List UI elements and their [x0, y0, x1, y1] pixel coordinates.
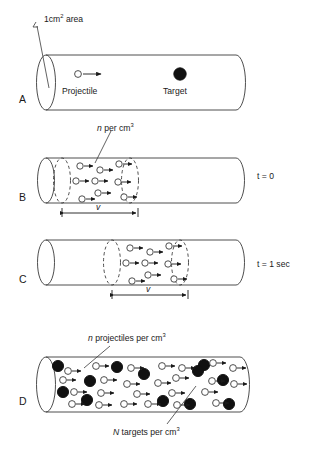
targets-density-label: N targets per cm3 — [113, 428, 180, 437]
panel-a-cylinder — [37, 55, 246, 110]
panel-letter-d: D — [19, 396, 27, 407]
panel-letter-a: A — [19, 94, 26, 105]
projectile-circle — [75, 71, 82, 78]
panel-d-targets — [52, 359, 234, 409]
diagram-svg — [0, 0, 314, 455]
velocity-label-b: v — [96, 203, 100, 212]
time-label-b: t = 0 — [257, 172, 274, 181]
projectile-label: Projectile — [62, 87, 97, 96]
panel-c-cylinder — [38, 240, 245, 285]
area-label: 1cm2 area — [44, 15, 83, 24]
panel-b-cylinder — [38, 158, 245, 203]
panel-b-projectiles — [73, 161, 137, 202]
panel-letter-b: B — [19, 192, 26, 203]
target-label: Target — [163, 87, 187, 96]
time-label-c: t = 1 sec — [257, 260, 290, 269]
panel-c-projectiles — [123, 243, 187, 284]
density-label: n per cm3 — [97, 124, 134, 133]
area-leader-line — [37, 26, 49, 88]
velocity-label-c: v — [146, 285, 150, 294]
projectiles-density-label: n projectiles per cm3 — [88, 334, 166, 343]
panel-letter-c: C — [19, 274, 27, 285]
figure-canvas: 1cm2 area A Projectile Target n per cm3 … — [0, 0, 314, 455]
target-circle — [174, 68, 186, 80]
